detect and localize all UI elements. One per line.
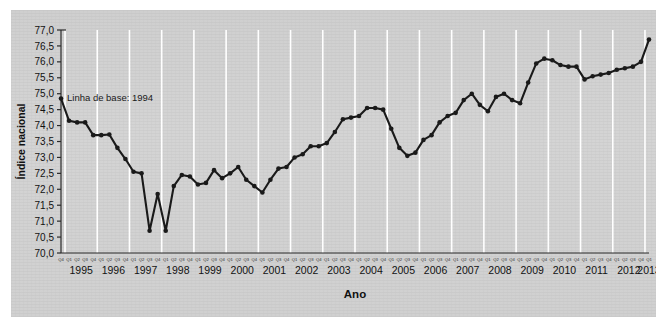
data-point [614,68,619,73]
x-quarter-label: Q3 [340,257,346,262]
data-point [75,120,80,125]
x-quarter-label: Q4 [58,257,64,262]
x-quarter-label: Q4 [123,257,129,262]
x-quarter-label: Q4 [348,257,354,262]
data-point [244,177,249,182]
x-year-label-2006: 2006 [424,264,448,276]
data-point [486,109,491,114]
data-point [260,190,265,195]
data-point [308,144,313,149]
data-point [252,184,257,189]
x-quarter-label: Q3 [566,257,572,262]
data-point [316,144,321,149]
data-point [67,118,72,123]
data-point [357,114,362,119]
x-quarter-label: Q1 [356,257,362,262]
x-quarter-label: Q1 [66,257,72,262]
x-quarter-label: Q3 [405,257,411,262]
x-quarter-label: Q4 [445,257,451,262]
data-point [373,106,378,111]
x-year-label-1998: 1998 [166,264,190,276]
x-year-label-2010: 2010 [553,264,577,276]
x-axis-quarter-labels: Q4Q1Q2Q3Q4Q1Q2Q3Q4Q1Q2Q3Q4Q1Q2Q3Q4Q1Q2Q3… [58,257,652,262]
data-point [469,91,474,96]
x-quarter-label: Q4 [90,257,96,262]
x-quarter-label: Q4 [574,257,580,262]
x-quarter-label: Q1 [614,257,620,262]
x-year-label-2013: 2013 [637,264,656,276]
data-point [639,60,644,65]
data-point [590,74,595,79]
x-quarter-label: Q3 [469,257,475,262]
data-point [631,64,636,69]
x-quarter-label: Q3 [437,257,443,262]
data-point [220,176,225,181]
data-point [574,64,579,69]
x-quarter-label: Q3 [179,257,185,262]
x-quarter-label: Q1 [131,257,137,262]
data-point [494,95,499,100]
y-tick-label: 74,0 [35,120,55,131]
y-tick-label: 75,0 [35,88,55,99]
x-quarter-label: Q2 [525,257,531,262]
data-point [389,126,394,131]
x-quarter-label: Q2 [268,257,274,262]
x-quarter-label: Q1 [292,257,298,262]
x-quarter-label: Q4 [219,257,225,262]
x-quarter-label: Q2 [622,257,628,262]
data-point [204,181,209,186]
x-quarter-label: Q3 [308,257,314,262]
data-point [405,154,410,159]
data-point [550,58,555,63]
data-point [502,91,507,96]
data-point [147,228,152,233]
data-point [461,98,466,103]
x-axis-title: Ano [344,288,366,300]
data-point [83,120,88,125]
x-quarter-label: Q2 [300,257,306,262]
x-quarter-label: Q2 [171,257,177,262]
y-tick-label: 77,0 [35,25,55,36]
y-axis-tick-labels: 70,070,571,071,572,072,573,073,574,074,5… [35,25,55,259]
data-point [413,150,418,155]
x-quarter-label: Q2 [493,257,499,262]
data-point [284,165,289,170]
x-quarter-label: Q2 [461,257,467,262]
y-axis-title: Índice nacional [15,103,27,179]
data-point [325,141,330,146]
data-point [566,64,571,69]
data-point [99,133,104,138]
x-year-label-2008: 2008 [488,264,512,276]
x-quarter-label: Q4 [187,257,193,262]
x-quarter-label: Q3 [115,257,121,262]
y-tick-label: 70,0 [35,248,55,259]
x-quarter-label: Q4 [316,257,322,262]
x-quarter-label: Q2 [203,257,209,262]
x-year-label-2007: 2007 [456,264,480,276]
x-year-label-1997: 1997 [134,264,158,276]
x-quarter-label: Q4 [155,257,161,262]
x-quarter-label: Q2 [235,257,241,262]
data-point [365,106,370,111]
x-quarter-label: Q4 [638,257,644,262]
data-point [526,80,531,85]
x-quarter-label: Q1 [646,257,652,262]
data-point [123,157,128,162]
x-quarter-label: Q3 [533,257,539,262]
data-point [582,77,587,82]
data-point [163,228,168,233]
y-tick-label: 70,5 [35,232,55,243]
x-quarter-label: Q1 [260,257,266,262]
data-point [437,120,442,125]
x-quarter-label: Q3 [372,257,378,262]
x-quarter-label: Q4 [509,257,515,262]
y-tick-label: 73,0 [35,152,55,163]
x-year-label-2003: 2003 [327,264,351,276]
data-point [518,101,523,106]
data-point [421,138,426,143]
x-year-label-1999: 1999 [198,264,222,276]
x-quarter-label: Q3 [501,257,507,262]
y-tick-label: 72,5 [35,168,55,179]
data-point [292,155,297,160]
data-point [131,169,136,174]
